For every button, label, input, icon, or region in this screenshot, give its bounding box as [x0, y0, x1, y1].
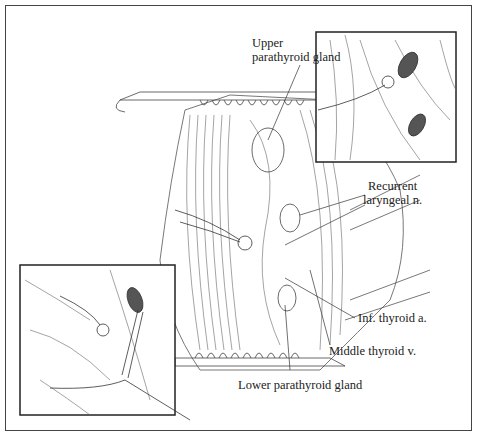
inset-bottom-left [20, 265, 190, 420]
label-recurrent-line1: Recurrent [368, 179, 417, 193]
label-inf-thyroid: Inf. thyroid a. [358, 311, 427, 325]
label-upper-parathyroid-line2: parathyroid gland [252, 50, 341, 64]
label-lower-parathyroid: Lower parathyroid gland [238, 378, 362, 392]
label-upper-parathyroid-line1: Upper [252, 36, 283, 50]
label-recurrent-line2: laryngeal n. [363, 193, 422, 207]
surgical-illustration [0, 0, 479, 438]
label-middle-thyroid: Middle thyroid v. [329, 344, 416, 358]
